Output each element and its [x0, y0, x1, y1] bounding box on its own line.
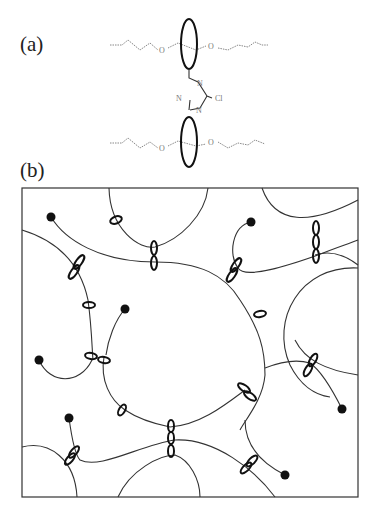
- atom-n: N: [197, 79, 203, 88]
- atom-o: O: [159, 144, 165, 153]
- atom-o: O: [208, 42, 214, 51]
- polymer-chain: [118, 455, 200, 497]
- molecule-diagram: O O N N N Cl O O: [110, 19, 268, 167]
- top-chain-mid: [168, 43, 206, 50]
- polymer-chain: [22, 230, 93, 360]
- atom-cl: Cl: [215, 94, 223, 103]
- bottom-chain-left: [110, 138, 158, 148]
- atom-n: N: [196, 106, 202, 115]
- cyclodextrin-ring-top: [181, 19, 197, 69]
- cyclodextrin-ring: [63, 452, 77, 467]
- end-group-dot: [247, 218, 256, 227]
- polymer-chain: [109, 188, 208, 247]
- end-group-dot: [121, 305, 130, 314]
- end-group-dot: [35, 356, 44, 365]
- cyclodextrin-ring: [168, 420, 174, 432]
- end-group-dot: [65, 414, 74, 423]
- cyclodextrin-ring: [168, 432, 174, 444]
- cyclodextrin-ring: [225, 267, 239, 284]
- polymer-chain: [103, 357, 245, 427]
- cyclodextrin-ring: [85, 352, 98, 360]
- cyclodextrin-ring: [67, 264, 81, 281]
- figure-canvas: O O N N N Cl O O: [0, 0, 376, 516]
- bottom-chain-mid: [168, 141, 206, 146]
- cyclodextrin-ring: [151, 241, 157, 255]
- bottom-chain-right: [218, 140, 265, 148]
- polymer-chain: [284, 268, 358, 397]
- atom-n: N: [176, 94, 182, 103]
- atom-o: O: [208, 138, 214, 147]
- polymer-chain: [262, 188, 358, 217]
- cyclodextrin-ring: [302, 362, 314, 377]
- top-chain-right: [218, 42, 268, 50]
- end-group-dot: [338, 405, 347, 414]
- polymer-chain: [315, 253, 358, 265]
- cyclodextrin-ring: [313, 221, 319, 235]
- polymer-chain: [233, 222, 358, 272]
- end-group-dot: [281, 471, 290, 480]
- atom-o: O: [159, 46, 165, 55]
- cyclodextrin-ring: [243, 390, 258, 403]
- top-chain-left: [110, 40, 158, 50]
- polymer-chain: [39, 360, 92, 379]
- end-group-dot: [47, 213, 56, 222]
- cyclodextrin-ring-bottom: [181, 117, 197, 167]
- cyclodextrin-ring: [116, 403, 127, 416]
- triazine-bond: [189, 100, 190, 110]
- cyclodextrin-ring: [313, 235, 319, 249]
- network-diagram: [22, 188, 358, 497]
- cyclodextrin-ring: [254, 310, 267, 318]
- cyclodextrin-ring: [151, 256, 157, 270]
- polymer-chain: [106, 309, 125, 355]
